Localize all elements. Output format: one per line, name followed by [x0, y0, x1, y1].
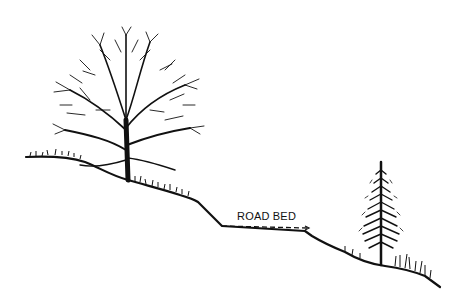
deciduous-tree-icon [53, 27, 204, 180]
conifer-tree-icon [359, 162, 403, 265]
ground-profile [26, 157, 440, 287]
slope-diagram: ROAD BED [0, 0, 469, 290]
road-bed-label: ROAD BED [237, 210, 296, 222]
diagram-drawing [0, 0, 469, 290]
